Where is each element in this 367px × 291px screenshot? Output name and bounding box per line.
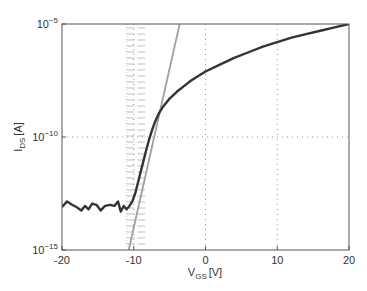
x-tick-label: -10 <box>126 254 142 266</box>
y-tick-label: 10−10 <box>32 129 58 143</box>
x-tick-label: 10 <box>271 254 283 266</box>
ids-curve <box>62 24 349 212</box>
x-tick-label: -20 <box>54 254 70 266</box>
chart-canvas: -20-1001020 10−510−1010−15 VGS[V] IDS[A] <box>0 0 367 291</box>
x-tick-label: 20 <box>343 254 355 266</box>
grid-lines <box>62 24 349 250</box>
x-axis-label: VGS[V] <box>188 266 222 281</box>
y-axis-label: IDS[A] <box>12 122 27 152</box>
x-axis-ticks: -20-1001020 <box>54 246 355 266</box>
data-series <box>62 24 349 250</box>
y-axis-ticks: 10−510−1010−15 <box>32 16 66 256</box>
x-tick-label: 0 <box>202 254 208 266</box>
plot-frame <box>62 24 349 250</box>
y-tick-label: 10−5 <box>37 16 59 30</box>
